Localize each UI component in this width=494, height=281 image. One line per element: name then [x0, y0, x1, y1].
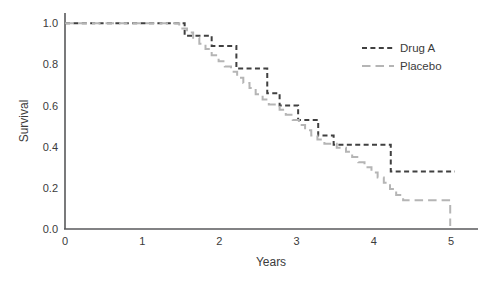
y-tick-label: 0.4: [43, 141, 58, 153]
x-tick-label: 0: [62, 235, 68, 247]
x-tick-label: 2: [216, 235, 222, 247]
legend-label-placebo: Placebo: [400, 60, 442, 72]
y-tick-label: 0.0: [43, 223, 58, 235]
survival-chart: 0.00.20.40.60.81.0 012345 Years Survival…: [0, 0, 494, 281]
y-tick-label: 0.8: [43, 58, 58, 70]
legend-label-drug-a: Drug A: [400, 42, 435, 54]
y-axis-title: Survival: [17, 100, 31, 143]
x-tick-label: 5: [448, 235, 454, 247]
x-axis-title: Years: [256, 255, 286, 269]
y-tick-label: 1.0: [43, 17, 58, 29]
y-tick-label: 0.6: [43, 100, 58, 112]
x-tick-label: 4: [371, 235, 377, 247]
x-tick-label: 3: [294, 235, 300, 247]
y-tick-label: 0.2: [43, 182, 58, 194]
x-tick-label: 1: [139, 235, 145, 247]
chart-canvas: 0.00.20.40.60.81.0 012345 Years Survival…: [0, 0, 494, 281]
